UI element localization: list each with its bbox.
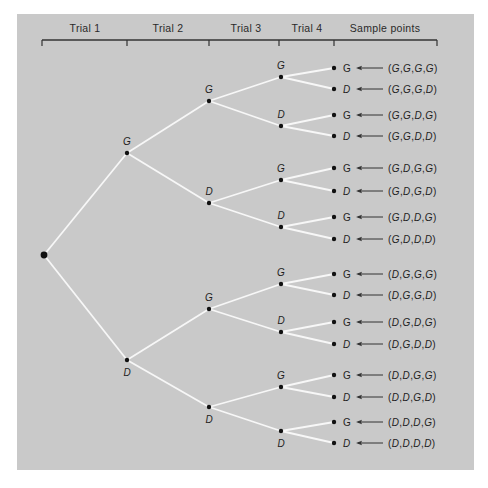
trial2-node: [125, 151, 129, 155]
node-label: D: [277, 210, 284, 221]
trial4-node: [279, 385, 283, 389]
leaf-label: D: [343, 234, 350, 245]
sample-arrows: [356, 66, 383, 445]
leaf-node: [332, 420, 336, 424]
tree-branch: [209, 387, 281, 407]
trial3-node: [207, 201, 211, 205]
leaf-label: D: [343, 84, 350, 95]
node-label: D: [205, 414, 212, 425]
leaf-node: [332, 134, 336, 138]
tree-branch: [44, 255, 127, 360]
leaf-label: D: [343, 131, 350, 142]
tree-branch: [281, 180, 334, 191]
leaf-label: G: [343, 317, 351, 328]
trial4-node: [279, 429, 283, 433]
sample-point: (G,G,G,G): [388, 63, 438, 74]
node-label: G: [205, 84, 213, 95]
node-label: D: [277, 315, 284, 326]
leaf-node: [332, 215, 336, 219]
tree-branch: [281, 332, 334, 344]
tree-branch: [281, 68, 334, 77]
sample-point: (G,D,D,D): [388, 234, 436, 245]
tree-branch: [209, 309, 281, 332]
leaf-label: D: [343, 438, 350, 449]
trial4-node: [279, 124, 283, 128]
leaf-label: D: [343, 392, 350, 403]
tree-branch: [127, 153, 209, 203]
tree-branch: [209, 284, 281, 309]
trial4-node: [279, 178, 283, 182]
leaf-label: G: [343, 370, 351, 381]
trial3-node: [207, 99, 211, 103]
node-label: G: [277, 370, 285, 381]
leaf-label: G: [343, 163, 351, 174]
column-header: Trial 1: [70, 22, 101, 34]
sample-point: (D,G,G,D): [388, 290, 437, 301]
leaf-node: [332, 237, 336, 241]
sample-point: (G,D,G,D): [388, 186, 437, 197]
tree-branch: [44, 153, 127, 255]
node-label: G: [277, 267, 285, 278]
trial4-node: [279, 282, 283, 286]
leaf-node: [332, 66, 336, 70]
node-label: G: [205, 292, 213, 303]
tree-branch: [209, 407, 281, 431]
trial2-node: [125, 358, 129, 362]
leaf-label: G: [343, 63, 351, 74]
tree-branch: [209, 180, 281, 203]
trial-timeline: [42, 40, 437, 46]
tree-branch: [281, 322, 334, 332]
sample-point: (D,G,G,G): [388, 269, 437, 280]
tree-branch: [281, 168, 334, 180]
trial4-node: [279, 75, 283, 79]
sample-point: (D,G,D,G): [388, 317, 437, 328]
node-label: G: [277, 60, 285, 71]
tree-branch: [281, 126, 334, 136]
leaf-label: D: [343, 186, 350, 197]
trial4-node: [279, 330, 283, 334]
column-header: Sample points: [350, 22, 420, 34]
leaf-node: [332, 395, 336, 399]
sample-point: (G,G,G,D): [388, 84, 437, 95]
tree-branches: [44, 68, 334, 443]
leaf-node: [332, 272, 336, 276]
tree-branch: [127, 360, 209, 407]
tree-branch: [281, 284, 334, 295]
leaf-label: G: [343, 417, 351, 428]
node-label: G: [277, 163, 285, 174]
tree-branch: [281, 77, 334, 89]
leaf-node: [332, 166, 336, 170]
tree-branch: [209, 203, 281, 227]
node-label: G: [123, 136, 131, 147]
sample-point: (D,D,G,D): [388, 392, 436, 403]
leaf-node: [332, 87, 336, 91]
leaf-node: [332, 373, 336, 377]
sample-point: (G,G,D,G): [388, 110, 437, 121]
tree-branch: [281, 227, 334, 239]
sample-point: (D,D,G,G): [388, 370, 437, 381]
root-node: [41, 252, 48, 259]
trial3-node: [207, 307, 211, 311]
trial3-node: [207, 405, 211, 409]
column-header: Trial 2: [153, 22, 184, 34]
sample-point: (G,D,G,G): [388, 163, 437, 174]
node-label: D: [205, 186, 212, 197]
leaf-label: G: [343, 269, 351, 280]
node-label: D: [277, 438, 284, 449]
tree-branch: [209, 101, 281, 126]
sample-point: (G,G,D,D): [388, 131, 437, 142]
tree-branch: [281, 431, 334, 443]
sample-point: (D,G,D,D): [388, 339, 436, 350]
leaf-label: D: [343, 339, 350, 350]
tree-branch: [127, 101, 209, 153]
leaf-label: D: [343, 290, 350, 301]
column-header: Trial 4: [292, 22, 323, 34]
node-label: D: [277, 109, 284, 120]
leaf-label: G: [343, 110, 351, 121]
sample-point: (G,D,D,G): [388, 212, 437, 223]
tree-branch: [281, 115, 334, 126]
tree-branch: [281, 387, 334, 397]
sample-point: (D,D,D,G): [388, 417, 436, 428]
tree-branch: [281, 375, 334, 387]
tree-branch: [127, 309, 209, 360]
